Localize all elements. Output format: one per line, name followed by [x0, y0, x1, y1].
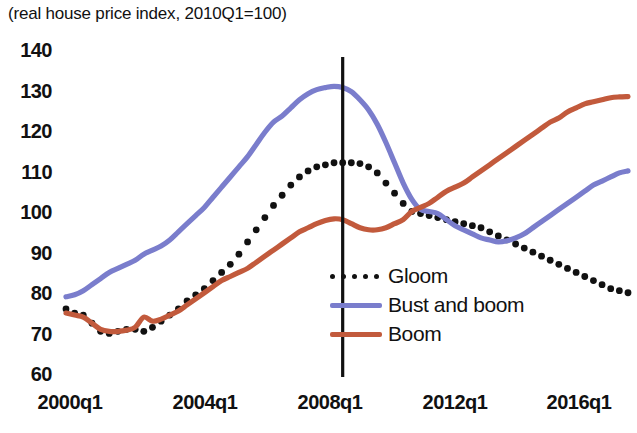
data-point [391, 190, 398, 197]
data-point [581, 273, 588, 280]
solid-line-swatch-icon-red [328, 324, 384, 344]
data-point [599, 281, 606, 288]
plot-area [0, 0, 637, 433]
data-point [253, 226, 260, 233]
chart-legend: Gloom Bust and boom Boom [328, 262, 524, 348]
data-point [616, 287, 623, 294]
data-point [374, 170, 381, 177]
chart-container: (real house price index, 2010Q1=100) 140… [0, 0, 637, 433]
data-point [244, 239, 251, 246]
data-point [625, 289, 632, 296]
data-point [261, 214, 268, 221]
data-point [400, 200, 407, 207]
data-point [331, 159, 338, 166]
data-point [573, 269, 580, 276]
data-point [365, 163, 372, 170]
data-point [305, 167, 312, 174]
data-point [218, 269, 225, 276]
data-point [547, 257, 554, 264]
data-point [149, 324, 156, 331]
data-point [357, 160, 364, 167]
legend-label-boom: Boom [388, 322, 441, 346]
data-point [270, 202, 277, 209]
data-point [512, 241, 519, 248]
legend-label-bust-and-boom: Bust and boom [388, 293, 524, 317]
data-point [529, 249, 536, 256]
data-point [348, 159, 355, 166]
data-point [296, 174, 303, 181]
data-point [287, 182, 294, 189]
data-point [590, 277, 597, 284]
data-point [313, 163, 320, 170]
data-point [495, 232, 502, 239]
legend-item-gloom: Gloom [328, 262, 524, 290]
legend-label-gloom: Gloom [388, 264, 448, 288]
legend-item-bust-and-boom: Bust and boom [328, 291, 524, 319]
data-point [469, 222, 476, 229]
data-point [486, 228, 493, 235]
data-point [521, 245, 528, 252]
legend-item-boom: Boom [328, 320, 524, 348]
data-point [564, 265, 571, 272]
data-point [322, 161, 329, 168]
dotted-line-swatch-icon [328, 266, 384, 286]
data-point [383, 180, 390, 187]
data-point [478, 224, 485, 231]
data-point [279, 192, 286, 199]
data-point [236, 251, 243, 258]
solid-line-swatch-icon-blue [328, 295, 384, 315]
data-point [538, 253, 545, 260]
data-point [140, 328, 147, 335]
data-point [607, 285, 614, 292]
data-point [227, 261, 234, 268]
data-point [555, 261, 562, 268]
